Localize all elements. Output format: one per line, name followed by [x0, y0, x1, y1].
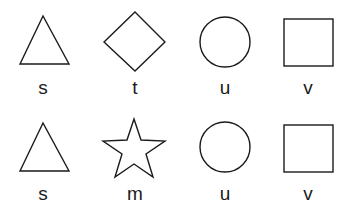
row1-label-2: t: [132, 77, 138, 98]
row1-triangle-shape: [20, 16, 69, 64]
row2-triangle-shape: [20, 123, 69, 171]
shape-grid: s t u v s m u v: [0, 0, 350, 216]
row2-label-3: u: [220, 183, 231, 204]
row2-label-1: s: [38, 183, 48, 204]
row1-label-3: u: [220, 77, 231, 98]
row1-diamond-shape: [104, 12, 165, 71]
row1-label-4: v: [303, 77, 313, 98]
row1-label-1: s: [38, 77, 48, 98]
row2-square-shape: [284, 125, 333, 172]
row2-star-shape: [103, 119, 165, 177]
row1-circle-shape: [200, 17, 250, 67]
row2-label-4: v: [303, 183, 313, 204]
row1-square-shape: [284, 19, 333, 66]
row2-circle-shape: [200, 122, 250, 172]
row2-label-2: m: [127, 183, 143, 204]
